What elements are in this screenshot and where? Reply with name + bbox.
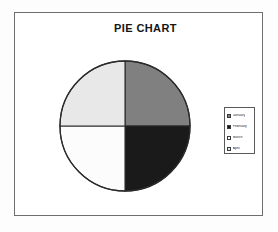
pie-slice-march[interactable]	[60, 126, 125, 191]
legend-item-april[interactable]: April	[227, 144, 252, 154]
legend-item-label: April	[233, 147, 240, 151]
pie-chart-graphic	[59, 60, 191, 192]
legend-swatch-icon	[227, 136, 231, 140]
legend-item-label: February	[233, 125, 247, 129]
legend-swatch-icon	[227, 147, 231, 151]
legend: January February March April	[224, 107, 255, 154]
pie-slice-january[interactable]	[125, 61, 190, 126]
legend-item-march[interactable]: March	[227, 133, 252, 143]
legend-swatch-icon	[227, 125, 231, 129]
chart-frame: PIE CHART January February March April	[14, 12, 263, 216]
legend-swatch-icon	[227, 114, 231, 118]
legend-item-label: March	[233, 136, 243, 140]
legend-item-january[interactable]: January	[227, 111, 252, 121]
pie-svg	[59, 60, 191, 192]
pie-slice-april[interactable]	[60, 61, 125, 126]
legend-item-february[interactable]: February	[227, 122, 252, 132]
pie-slice-february[interactable]	[125, 126, 190, 191]
legend-item-label: January	[233, 114, 246, 118]
chart-title: PIE CHART	[15, 22, 262, 34]
